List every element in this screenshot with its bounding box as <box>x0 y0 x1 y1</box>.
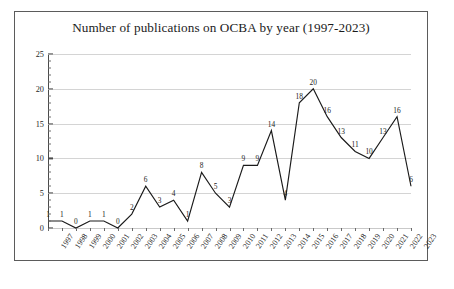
data-point-label: 6 <box>409 175 413 184</box>
data-point-label: 9 <box>242 154 246 163</box>
x-tick <box>397 228 398 231</box>
y-tick-minor <box>48 207 51 208</box>
x-tick <box>243 228 244 231</box>
y-tick-minor <box>48 102 51 103</box>
data-point-label: 18 <box>296 92 303 101</box>
y-tick-major <box>48 53 53 54</box>
x-tick <box>411 228 412 231</box>
y-tick-label: 5 <box>18 189 44 198</box>
x-tick <box>271 228 272 231</box>
data-point-label: 5 <box>214 182 218 191</box>
x-tick-label: 2008 <box>213 232 229 250</box>
y-tick-minor <box>48 200 51 201</box>
data-point-label: 16 <box>393 106 400 115</box>
y-tick-major <box>48 88 53 89</box>
y-tick-minor <box>48 144 51 145</box>
x-tick <box>355 228 356 231</box>
x-tick-label: 2003 <box>143 232 159 250</box>
x-tick <box>230 228 231 231</box>
x-tick-label: 1999 <box>87 232 103 250</box>
data-point-label: 11 <box>352 140 359 149</box>
x-tick-label: 2014 <box>296 232 312 250</box>
x-tick-label: 2018 <box>352 232 368 250</box>
x-tick-label: 2007 <box>199 232 215 250</box>
y-tick-minor <box>48 165 51 166</box>
y-tick-label: 15 <box>18 119 44 128</box>
y-tick-label: 20 <box>18 84 44 93</box>
y-tick-minor <box>48 221 51 222</box>
data-point-label: 8 <box>200 161 204 170</box>
y-tick-major <box>48 193 53 194</box>
x-tick <box>174 228 175 231</box>
chart-figure: Number of publications on OCBA by year (… <box>14 11 428 261</box>
x-tick <box>118 228 119 231</box>
x-tick-label: 2012 <box>268 232 284 250</box>
data-point-label: 14 <box>268 120 275 129</box>
x-tick <box>146 228 147 231</box>
x-tick <box>216 228 217 231</box>
y-tick-label: 0 <box>18 224 44 233</box>
y-tick-label: 25 <box>18 50 44 59</box>
y-tick-label: 10 <box>18 154 44 163</box>
data-point-label: 1 <box>88 210 92 219</box>
data-point-label: 1 <box>102 210 106 219</box>
plot-area: 110110263418539914418201613111013166 <box>48 54 411 228</box>
x-tick-label: 2013 <box>282 232 298 250</box>
x-tick <box>48 228 49 231</box>
y-tick-minor <box>48 179 51 180</box>
x-tick <box>383 228 384 231</box>
x-tick <box>188 228 189 231</box>
y-tick-minor <box>48 109 51 110</box>
data-point-label: 0 <box>116 217 120 226</box>
x-tick-label: 2016 <box>324 232 340 250</box>
y-tick-minor <box>48 130 51 131</box>
x-tick-label: 2004 <box>157 232 173 250</box>
y-tick-major <box>48 158 53 159</box>
y-tick-minor <box>48 60 51 61</box>
y-tick-minor <box>48 172 51 173</box>
data-point-label: 4 <box>283 189 287 198</box>
data-point-label: 0 <box>74 217 78 226</box>
y-tick-minor <box>48 74 51 75</box>
data-point-label: 10 <box>365 147 372 156</box>
data-point-label: 20 <box>310 78 317 87</box>
x-tick <box>202 228 203 231</box>
x-tick-label: 2005 <box>171 232 187 250</box>
x-tick <box>76 228 77 231</box>
x-tick-label: 2011 <box>254 232 270 250</box>
x-tick-label: 2021 <box>394 232 410 250</box>
y-tick-minor <box>48 151 51 152</box>
x-tick-label: 2023 <box>422 232 438 250</box>
y-tick-major <box>48 123 53 124</box>
x-tick <box>369 228 370 231</box>
y-tick-minor <box>48 67 51 68</box>
x-tick-label: 2002 <box>129 232 145 250</box>
data-point-label: 2 <box>130 203 134 212</box>
x-tick-label: 2000 <box>101 232 117 250</box>
y-tick-minor <box>48 81 51 82</box>
data-point-label: 13 <box>379 127 386 136</box>
x-tick <box>160 228 161 231</box>
x-tick <box>285 228 286 231</box>
data-point-label: 6 <box>144 175 148 184</box>
x-tick <box>299 228 300 231</box>
x-tick <box>90 228 91 231</box>
data-point-label: 13 <box>337 127 344 136</box>
y-tick-minor <box>48 137 51 138</box>
data-point-label: 4 <box>172 189 176 198</box>
x-tick-label: 2017 <box>338 232 354 250</box>
y-tick-minor <box>48 116 51 117</box>
data-point-label: 1 <box>60 210 64 219</box>
x-tick <box>132 228 133 231</box>
x-tick-label: 1997 <box>59 232 75 250</box>
y-tick-minor <box>48 186 51 187</box>
chart-title: Number of publications on OCBA by year (… <box>15 20 427 36</box>
x-tick-label: 1998 <box>73 232 89 250</box>
x-tick-label: 2015 <box>310 232 326 250</box>
x-tick-label: 2022 <box>408 232 424 250</box>
x-tick <box>257 228 258 231</box>
x-tick-label: 2001 <box>115 232 131 250</box>
x-tick-label: 2020 <box>380 232 396 250</box>
x-tick <box>313 228 314 231</box>
data-point-label: 9 <box>256 154 260 163</box>
